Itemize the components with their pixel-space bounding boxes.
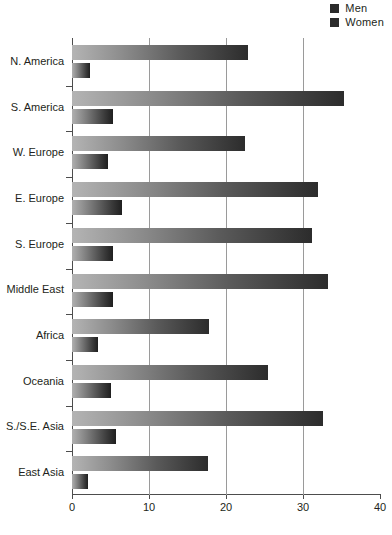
bar-men [72,45,248,60]
x-axis-tick-label: 0 [69,501,75,513]
y-axis-category-label: Middle East [0,283,64,295]
x-axis-tick [226,495,227,499]
bar-women [72,246,113,261]
y-axis-tick [66,406,72,407]
y-axis-category-label: Oceania [0,375,64,387]
gridline [226,38,227,495]
legend-square-icon [330,4,339,13]
x-axis-tick [72,495,73,499]
bar-women [72,63,90,78]
bar-women [72,200,122,215]
bar-men [72,365,268,380]
bar-women [72,154,108,169]
legend-item-men: Men [330,2,367,14]
bar-men [72,91,344,106]
legend-label-men: Men [345,3,367,14]
x-axis-tick-label: 30 [297,501,309,513]
y-axis-category-label: S. Europe [0,238,64,250]
x-axis-tick [149,495,150,499]
y-axis-category-label: East Asia [0,466,64,478]
gridline [149,38,150,495]
bar-men [72,136,245,151]
y-axis-category-label: S. America [0,101,64,113]
y-axis-tick [66,177,72,178]
bar-women [72,429,116,444]
bar-men [72,274,328,289]
bar-women [72,337,98,352]
gridline [303,38,304,495]
legend-square-icon [330,18,339,27]
y-axis-category-label: W. Europe [0,146,64,158]
x-axis-tick [380,495,381,499]
y-axis-tick [66,223,72,224]
x-axis-tick-label: 40 [374,501,386,513]
y-axis-tick [66,314,72,315]
y-axis-category-label: S./S.E. Asia [0,420,64,432]
y-axis-tick [66,86,72,87]
bar-men [72,228,312,243]
legend-label-women: Women [345,17,384,28]
y-axis-category-label: E. Europe [0,192,64,204]
bar-men [72,456,208,471]
y-axis-tick [66,360,72,361]
legend-item-women: Women [330,16,384,28]
y-axis-category-label: N. America [0,55,64,67]
bar-women [72,292,113,307]
y-axis-tick [66,131,72,132]
y-axis-tick [66,269,72,270]
y-axis-category-label: Africa [0,329,64,341]
bar-men [72,319,209,334]
x-axis-tick-label: 20 [220,501,232,513]
bar-men [72,411,323,426]
bar-women [72,383,111,398]
chart-legend: Men Women [330,2,384,28]
bar-men [72,182,318,197]
bar-women [72,109,113,124]
x-axis-tick-label: 10 [143,501,155,513]
x-axis-tick [303,495,304,499]
bar-women [72,474,88,489]
y-axis-tick [66,451,72,452]
bar-chart: Men Women N. AmericaS. AmericaW. EuropeE… [0,0,392,535]
y-axis-line [72,38,73,495]
